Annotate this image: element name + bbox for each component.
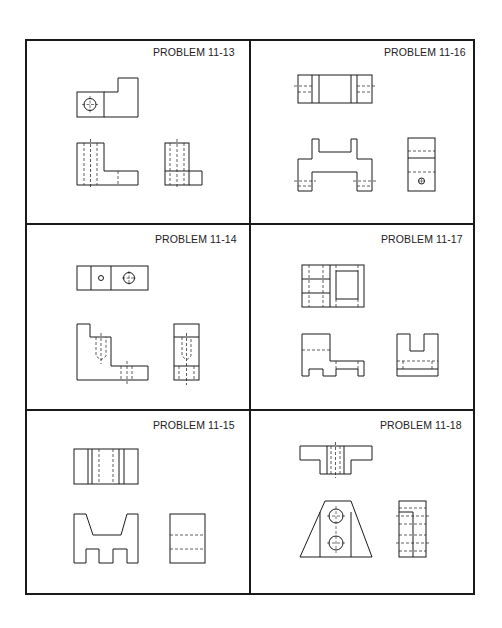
- problem-11-17-drawing: [302, 265, 438, 376]
- problem-11-16-drawing: [294, 75, 435, 191]
- problem-11-18-drawing: [300, 442, 429, 557]
- panel-title-11-16: PROBLEM 11-16: [384, 46, 466, 58]
- orthographic-drawings: [0, 0, 502, 628]
- problem-11-13-drawing: [77, 78, 202, 189]
- panel-title-11-14: PROBLEM 11-14: [155, 233, 237, 245]
- problem-11-15-drawing: [74, 449, 205, 563]
- problem-11-14-drawing: [77, 266, 199, 385]
- panel-title-11-15: PROBLEM 11-15: [153, 419, 235, 431]
- panel-title-11-18: PROBLEM 11-18: [380, 419, 462, 431]
- panel-title-11-13: PROBLEM 11-13: [153, 46, 235, 58]
- panel-title-11-17: PROBLEM 11-17: [381, 233, 463, 245]
